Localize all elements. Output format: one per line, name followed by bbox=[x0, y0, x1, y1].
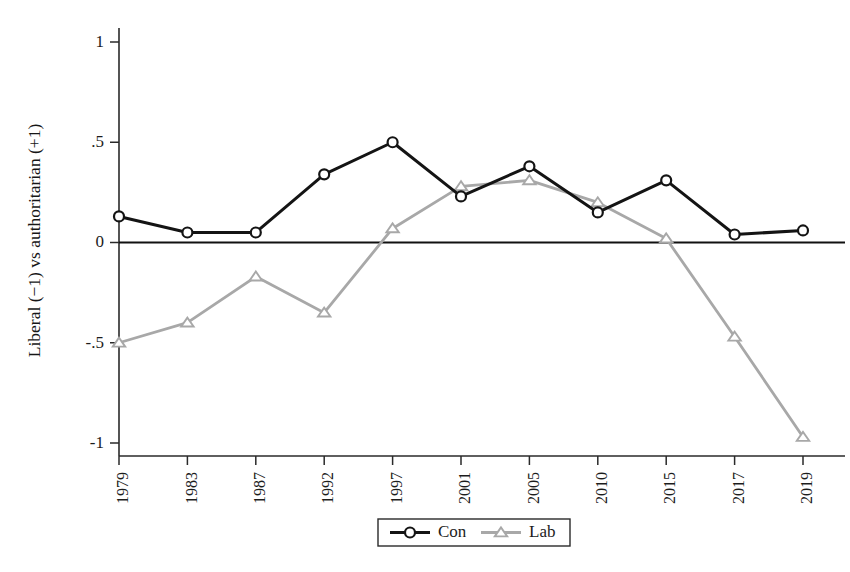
data-point-con-1987 bbox=[251, 227, 261, 237]
series-line-lab bbox=[119, 180, 803, 437]
data-point-lab-2019 bbox=[797, 432, 809, 441]
data-point-con-2001 bbox=[456, 191, 466, 201]
data-point-con-1992 bbox=[319, 169, 329, 179]
legend-label-con: Con bbox=[438, 522, 467, 541]
x-tick-label: 1979 bbox=[114, 472, 131, 504]
chart-figure: 1.50-.5-11979198319871992199720012005201… bbox=[0, 0, 850, 572]
x-tick-label: 1987 bbox=[251, 472, 268, 504]
data-point-con-2017 bbox=[730, 229, 740, 239]
y-tick-label: -1 bbox=[90, 433, 104, 452]
series-lab bbox=[113, 175, 809, 441]
x-tick-label: 1997 bbox=[388, 472, 405, 504]
data-point-lab-1987 bbox=[250, 272, 262, 281]
legend-swatch-marker-con bbox=[405, 528, 415, 538]
chart-legend[interactable]: ConLab bbox=[378, 519, 570, 546]
data-point-con-1983 bbox=[182, 227, 192, 237]
y-tick-label: .5 bbox=[91, 132, 104, 151]
x-tick-label: 1983 bbox=[183, 472, 200, 504]
x-tick-label: 2019 bbox=[798, 472, 815, 504]
data-point-con-1979 bbox=[114, 211, 124, 221]
y-axis-title: Liberal (−1) vs authoritarian (+1) bbox=[24, 124, 44, 358]
data-point-con-1997 bbox=[388, 137, 398, 147]
x-tick-label: 2017 bbox=[730, 472, 747, 504]
data-point-con-2019 bbox=[798, 225, 808, 235]
data-point-con-2010 bbox=[593, 207, 603, 217]
legend-label-lab: Lab bbox=[529, 522, 555, 541]
y-tick-label: 0 bbox=[96, 232, 105, 251]
x-tick-label: 2010 bbox=[593, 472, 610, 504]
axes-layer bbox=[110, 28, 845, 465]
data-point-con-2005 bbox=[524, 161, 534, 171]
y-tick-label: -.5 bbox=[86, 333, 104, 352]
series-layer bbox=[113, 137, 809, 441]
data-point-con-2015 bbox=[661, 175, 671, 185]
data-point-lab-2017 bbox=[728, 332, 740, 341]
line-chart-canvas: 1.50-.5-11979198319871992199720012005201… bbox=[0, 0, 850, 572]
tick-labels-layer: 1.50-.5-11979198319871992199720012005201… bbox=[24, 32, 815, 504]
x-tick-label: 1992 bbox=[319, 472, 336, 504]
x-tick-label: 2005 bbox=[525, 472, 542, 504]
x-tick-label: 2015 bbox=[661, 472, 678, 504]
y-tick-label: 1 bbox=[96, 32, 105, 51]
x-tick-label: 2001 bbox=[456, 472, 473, 504]
